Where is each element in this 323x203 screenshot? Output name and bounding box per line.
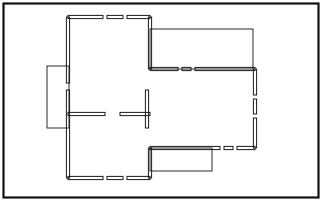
drawing-border: [4, 4, 319, 198]
floor-plan-canvas: [0, 0, 323, 203]
floor-plan-drawing: [0, 0, 323, 203]
